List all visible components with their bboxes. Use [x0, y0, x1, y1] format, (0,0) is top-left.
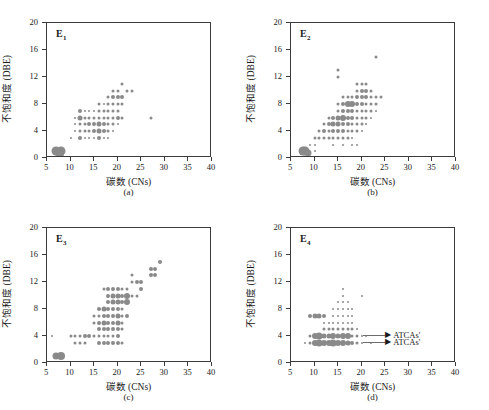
data-point	[347, 308, 349, 310]
x-tick	[408, 157, 409, 161]
y-tick-label: 4	[34, 125, 38, 135]
y-tick-label: 8	[34, 303, 38, 313]
data-point	[337, 69, 340, 72]
data-point	[74, 117, 76, 119]
data-point	[356, 109, 359, 112]
arrow-right-icon: ▶	[385, 338, 391, 346]
data-point	[97, 136, 101, 140]
x-tick-label: 20	[356, 162, 365, 172]
data-point	[356, 123, 359, 126]
x-tick-label: 25	[380, 367, 389, 377]
data-point	[121, 314, 124, 317]
data-point	[79, 123, 82, 126]
y-tick-label: 8	[278, 303, 282, 313]
plot-area-c	[47, 228, 210, 361]
data-point	[374, 103, 377, 106]
data-point	[102, 129, 106, 133]
data-point	[70, 137, 72, 139]
y-axis-title: 不饱和度 (DBE)	[0, 55, 13, 123]
plot-frame-a	[46, 22, 211, 157]
data-point	[102, 327, 106, 331]
data-point	[327, 130, 330, 133]
x-tick	[431, 157, 432, 161]
data-point	[111, 307, 115, 311]
x-tick-label: 15	[333, 367, 342, 377]
data-point	[112, 109, 115, 112]
data-point	[153, 267, 157, 271]
y-tick	[42, 103, 46, 104]
panel-series-label-b: E2	[300, 28, 311, 42]
data-point	[87, 122, 91, 126]
x-tick	[211, 362, 212, 366]
data-point	[370, 117, 372, 119]
data-point	[121, 308, 124, 311]
data-point	[322, 129, 326, 133]
y-tick	[42, 281, 46, 282]
plot-area-b	[291, 23, 454, 156]
data-point	[126, 89, 129, 92]
data-point	[116, 307, 120, 311]
data-point	[332, 315, 334, 317]
x-tick-label: 5	[288, 162, 292, 172]
x-tick	[337, 157, 338, 161]
data-point	[88, 116, 91, 119]
data-point	[374, 55, 377, 58]
y-tick	[286, 103, 290, 104]
data-point	[345, 333, 351, 339]
x-tick	[164, 157, 165, 161]
x-axis-title: 碳数 (CNs)	[46, 379, 211, 393]
x-tick-label: 10	[65, 367, 74, 377]
y-tick	[286, 335, 290, 336]
y-tick	[286, 254, 290, 255]
data-point	[356, 82, 359, 85]
panel-series-label-d: E4	[300, 233, 311, 247]
plot-frame-b	[290, 22, 455, 157]
data-point	[121, 321, 124, 324]
y-tick-label: 12	[274, 71, 283, 81]
subfigure-caption: (c)	[46, 392, 211, 402]
data-point	[116, 89, 119, 92]
data-point	[346, 96, 349, 99]
data-point	[106, 341, 110, 345]
x-tick	[187, 157, 188, 161]
data-point	[341, 96, 344, 99]
x-tick-label: 10	[309, 367, 318, 377]
x-tick-label: 35	[183, 162, 192, 172]
data-point	[351, 308, 353, 310]
data-point	[346, 328, 349, 331]
data-point	[370, 89, 373, 92]
x-tick-label: 20	[112, 367, 121, 377]
data-point	[124, 293, 130, 299]
x-tick-label: 25	[136, 162, 145, 172]
data-point	[93, 137, 95, 139]
data-point	[88, 110, 90, 112]
panel-b: E2510152025303540048121620碳数 (CNs)不饱和度 (…	[244, 0, 488, 205]
y-tick	[286, 49, 290, 50]
y-tick-label: 12	[30, 276, 39, 286]
data-point	[83, 123, 86, 126]
data-point	[107, 103, 110, 106]
data-point	[130, 274, 133, 277]
panel-a: E1510152025303540048121620碳数 (CNs)不饱和度 (…	[0, 0, 244, 205]
y-tick-label: 0	[278, 357, 282, 367]
data-point	[370, 96, 373, 99]
plot-area-a	[47, 23, 210, 156]
data-point	[116, 109, 119, 112]
data-point	[102, 341, 106, 345]
data-point	[116, 334, 120, 338]
data-point	[346, 116, 350, 120]
data-point	[135, 280, 139, 284]
data-point	[346, 130, 349, 133]
data-point	[116, 95, 120, 99]
data-point	[121, 103, 124, 106]
data-point	[107, 116, 110, 119]
x-tick	[164, 362, 165, 366]
subfigure-caption: (a)	[46, 187, 211, 197]
y-tick	[42, 49, 46, 50]
data-point	[83, 130, 86, 133]
data-point	[106, 327, 110, 331]
data-point	[370, 103, 373, 106]
data-point	[97, 335, 100, 338]
data-point	[116, 327, 120, 331]
x-tick	[431, 362, 432, 366]
